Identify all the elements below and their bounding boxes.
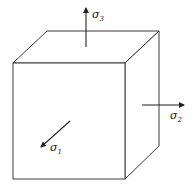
- sigma3-label: σ3: [92, 8, 105, 23]
- sigma2-label: σ2: [170, 109, 183, 124]
- stress-cube-diagram: σ3 σ2 σ1: [0, 0, 196, 191]
- cube-front-face: [13, 63, 125, 179]
